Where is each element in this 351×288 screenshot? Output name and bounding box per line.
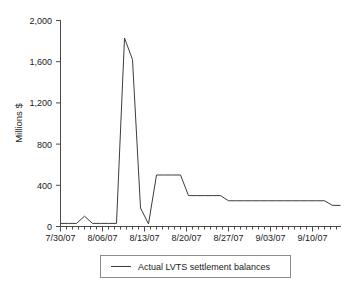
x-tick-label-1: 8/06/07 xyxy=(87,233,117,243)
y-tick-label-800: 800 xyxy=(37,140,52,150)
y-axis-title: Millions $ xyxy=(13,102,24,142)
x-tick-label-5: 9/03/07 xyxy=(255,233,285,243)
chart-figure: 2,000 1,600 1,200 800 400 0 Millions $ xyxy=(0,0,351,288)
x-tick-label-3: 8/20/07 xyxy=(171,233,201,243)
chart-legend: Actual LVTS settlement balances xyxy=(101,256,291,278)
y-tick-label-1600: 1,600 xyxy=(29,57,52,67)
chart-background xyxy=(0,0,351,288)
legend-label-0: Actual LVTS settlement balances xyxy=(138,262,270,272)
x-axis-tick-labels: 7/30/07 8/06/07 8/13/07 8/20/07 8/27/07 … xyxy=(45,233,327,243)
x-tick-label-0: 7/30/07 xyxy=(45,233,75,243)
x-tick-label-6: 9/10/07 xyxy=(297,233,327,243)
y-tick-label-400: 400 xyxy=(37,181,52,191)
lvts-settlement-balances-line-chart: 2,000 1,600 1,200 800 400 0 Millions $ xyxy=(0,0,351,288)
x-tick-label-2: 8/13/07 xyxy=(129,233,159,243)
y-tick-label-2000: 2,000 xyxy=(29,16,52,26)
y-tick-label-1200: 1,200 xyxy=(29,98,52,108)
y-tick-label-0: 0 xyxy=(47,222,52,232)
x-tick-label-4: 8/27/07 xyxy=(213,233,243,243)
